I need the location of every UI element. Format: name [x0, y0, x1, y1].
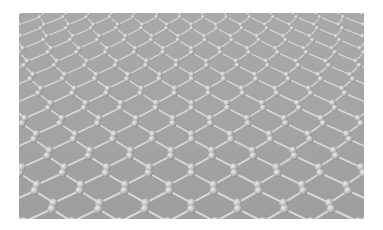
graphene-lattice-illustration — [19, 13, 364, 219]
hexagon-lattice-graphic — [19, 13, 364, 219]
